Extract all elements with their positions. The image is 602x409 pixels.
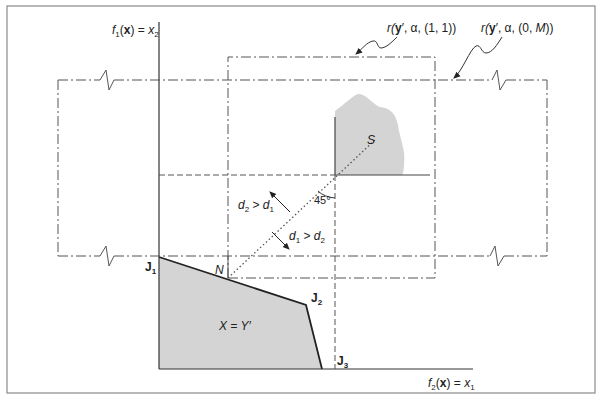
region-r-1-1 <box>228 57 435 278</box>
point-j1-label: J1 <box>145 260 157 276</box>
point-j3-label: J3 <box>337 354 349 370</box>
point-j2-label: J2 <box>311 291 323 307</box>
callout-leader-r-1-1 <box>356 37 397 54</box>
point-n-label: N <box>215 263 224 277</box>
feasible-region <box>159 257 322 369</box>
region-label: X = Y′ <box>218 319 251 333</box>
vertical-axis-label: f1(x) = x2 <box>112 23 159 39</box>
arrow-down-right-icon <box>272 232 289 249</box>
callout-r-1-1-label: r(y′, α, (1, 1)) <box>387 21 456 35</box>
direction-label-down: d1 > d2 <box>289 229 326 245</box>
callout-leader-r-0-M <box>454 37 502 78</box>
point-s-label: S <box>367 133 375 147</box>
angle-label: 45° <box>314 194 331 206</box>
diagram-canvas: f1(x) = x2 f2(x) = x1 r(y′, α, (1, 1)) r… <box>0 0 602 409</box>
horizontal-axis-label: f2(x) = x1 <box>428 376 475 392</box>
direction-label-up: d2 > d1 <box>238 198 275 214</box>
callout-r-0-M-label: r(y′, α, (0, M)) <box>481 21 554 35</box>
